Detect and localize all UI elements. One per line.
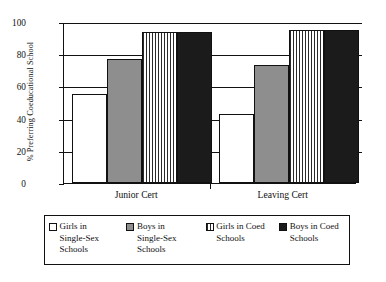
plot-area: 020406080100 [63,23,356,184]
legend-swatch-white [49,223,57,231]
legend-item-girls-in-coed-schools: Girls in Coed Schools [206,221,280,244]
chart-legend: Girls in Single-Sex SchoolsBoys in Singl… [44,215,350,265]
x-tick-label-leaving-cert: Leaving Cert [258,189,308,200]
legend-swatch-stripe [206,223,214,231]
legend-swatch-gray [126,223,134,231]
x-axis-divider-tick [210,184,211,189]
legend-label: Girls in Coed Schools [216,221,265,244]
bar-chart-figure: % Preferring Coeducational School 020406… [0,0,386,282]
bar-girls-in-coed-schools [142,32,177,183]
bar-group-junior-cert [64,23,211,183]
y-tick-mark-0 [59,184,64,185]
legend-label: Boys in Coed Schools [290,221,339,244]
y-tick-label-40: 40 [0,115,26,125]
bar-girls-in-coed-schools [289,30,324,183]
bar-boys-in-single-sex-schools [107,59,142,183]
y-tick-label-0: 0 [0,179,26,189]
legend-swatch-black [279,223,287,231]
bar-boys-in-single-sex-schools [254,65,289,183]
y-axis-title: % Preferring Coeducational School [26,12,35,192]
legend-item-girls-in-single-sex-schools: Girls in Single-Sex Schools [49,221,126,256]
bar-girls-in-single-sex-schools [219,114,254,183]
y-tick-label-60: 60 [0,82,26,92]
x-axis-tick-labels: Junior CertLeaving Cert [63,189,356,205]
bar-boys-in-coed-schools [324,30,359,183]
legend-item-boys-in-coed-schools: Boys in Coed Schools [279,221,345,244]
x-tick-label-junior-cert: Junior Cert [115,189,158,200]
y-tick-label-100: 100 [0,18,26,28]
legend-label: Girls in Single-Sex Schools [60,221,100,256]
y-tick-label-80: 80 [0,50,26,60]
bar-group-leaving-cert [211,23,358,183]
legend-item-boys-in-single-sex-schools: Boys in Single-Sex Schools [126,221,205,256]
bar-girls-in-single-sex-schools [72,94,107,183]
y-tick-label-20: 20 [0,147,26,157]
bar-boys-in-coed-schools [177,32,212,183]
legend-label: Boys in Single-Sex Schools [137,221,177,256]
